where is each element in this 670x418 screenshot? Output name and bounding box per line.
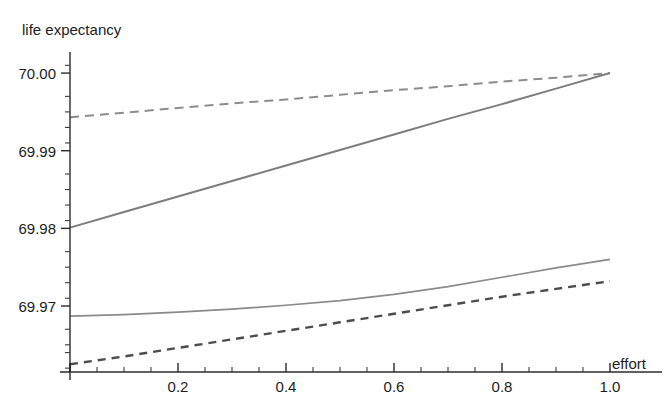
x-axis-title: effort: [612, 355, 647, 372]
x-axis: 0.20.40.60.81.0: [60, 363, 662, 395]
series-lower-solid: [70, 259, 610, 316]
x-tick-label: 0.8: [492, 378, 513, 395]
plot-area: [70, 73, 610, 364]
series-upper-solid: [70, 73, 610, 228]
y-axis: 69.9769.9869.9970.00: [18, 52, 70, 372]
series-upper-dashed: [70, 73, 610, 117]
x-tick-label: 0.2: [168, 378, 189, 395]
y-axis-title: life expectancy: [22, 21, 122, 38]
x-tick-label: 1.0: [600, 378, 621, 395]
y-tick-label: 69.99: [18, 143, 56, 160]
line-chart-canvas: 69.9769.9869.9970.00 0.20.40.60.81.0 lif…: [0, 0, 670, 418]
y-tick-label: 69.98: [18, 220, 56, 237]
series-lower-dashed: [70, 281, 610, 364]
chart-figure: 69.9769.9869.9970.00 0.20.40.60.81.0 lif…: [0, 0, 670, 418]
x-tick-label: 0.4: [276, 378, 297, 395]
y-tick-label: 70.00: [18, 65, 56, 82]
x-tick-label: 0.6: [384, 378, 405, 395]
y-tick-label: 69.97: [18, 298, 56, 315]
